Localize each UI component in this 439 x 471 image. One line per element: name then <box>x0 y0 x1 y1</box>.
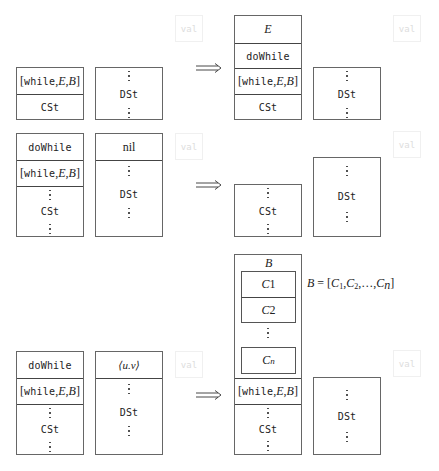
bracket-close: ] <box>76 74 80 89</box>
cst-cell: CSt <box>235 200 301 222</box>
vertical-dots-icon <box>346 432 348 445</box>
block-b: B <box>69 166 76 181</box>
vertical-dots-icon <box>128 208 130 221</box>
data-stack: DSt <box>95 67 163 120</box>
expr-e: E <box>58 384 65 399</box>
control-stack: doWhile [while,E,B] CSt <box>16 351 84 455</box>
transition-arrow-icon <box>196 180 222 190</box>
dowhile-cell: doWhile <box>17 134 83 160</box>
while-keyword: while <box>24 168 55 179</box>
dst-cell: DSt <box>314 186 380 206</box>
c-symbol: C <box>346 276 354 290</box>
bracket-close: ] <box>294 74 298 89</box>
while-cell: [while,E,B] <box>235 68 301 94</box>
control-stack: doWhile [while,E,B] CSt <box>16 133 84 237</box>
subscript: n <box>270 356 275 366</box>
val-register: val <box>175 133 203 160</box>
c-symbol: C <box>261 277 269 292</box>
while-cell: [while,E,B] <box>235 378 301 404</box>
vertical-dots-icon <box>49 224 51 237</box>
val-register: val <box>393 350 421 377</box>
val-register: val <box>393 131 421 158</box>
c-symbol: C <box>331 276 339 290</box>
control-stack: [while,E,B] CSt <box>16 67 84 120</box>
vertical-dots-icon <box>267 441 269 454</box>
equals: = [ <box>314 276 331 290</box>
data-stack: DSt <box>313 67 381 120</box>
vertical-dots-icon <box>128 384 130 397</box>
vertical-dots-icon <box>346 108 348 121</box>
transition-arrow-icon <box>196 390 222 400</box>
bracket-close: ] <box>76 166 80 181</box>
cst-cell: CSt <box>235 418 301 440</box>
expr-e: E <box>58 166 65 181</box>
bracket-close: ] <box>76 384 80 399</box>
block-b: B <box>287 384 294 399</box>
while-keyword: while <box>24 76 55 87</box>
vertical-dots-icon <box>346 212 348 225</box>
subscript: 2 <box>270 303 276 318</box>
vertical-dots-icon <box>267 328 269 341</box>
dst-cell: DSt <box>96 402 162 422</box>
block-item-cn: Cn <box>241 347 296 374</box>
while-cell: [while,E,B] <box>17 68 83 94</box>
dowhile-cell: doWhile <box>235 43 301 68</box>
cst-cell: CSt <box>17 94 83 120</box>
vertical-dots-icon <box>128 166 130 179</box>
block-item-c1: C1 <box>241 271 296 298</box>
c-symbol: C <box>262 353 270 368</box>
dst-cell: DSt <box>314 406 380 426</box>
control-stack: CSt <box>234 184 302 237</box>
transition-arrow-icon <box>196 63 222 73</box>
cst-cell: CSt <box>17 200 83 222</box>
expr-e: E <box>276 384 283 399</box>
while-keyword: while <box>242 386 273 397</box>
block-b: B <box>287 74 294 89</box>
expr-e: E <box>276 74 283 89</box>
block-definition: B = [C1,C2,…,Cn] <box>307 276 394 293</box>
pair-uv-cell: ⟨u.v⟩ <box>96 352 162 378</box>
while-cell: [while,E,B] <box>17 160 83 186</box>
vertical-dots-icon <box>128 108 130 121</box>
while-cell: [while,E,B] <box>17 378 83 404</box>
dst-cell: DSt <box>96 184 162 204</box>
data-stack: DSt <box>313 377 381 455</box>
expr-e: E <box>58 74 65 89</box>
block-item-c2: C2 <box>241 297 296 323</box>
bracket-close: ] <box>390 276 394 290</box>
subscript: 1 <box>270 277 276 292</box>
control-stack: B C1 C2 Cn [while,E,B] CSt <box>234 254 302 455</box>
block-label: B <box>265 256 272 271</box>
while-keyword: while <box>242 76 273 87</box>
block-b: B <box>69 384 76 399</box>
cst-cell: CSt <box>17 418 83 440</box>
data-stack: nil DSt <box>95 133 163 237</box>
cst-cell: CSt <box>235 94 301 120</box>
control-stack: E doWhile [while,E,B] CSt <box>234 15 302 120</box>
vertical-dots-icon <box>267 224 269 237</box>
nil-cell: nil <box>96 134 162 160</box>
ellipsis: ,…, <box>358 276 376 290</box>
expr-e-cell: E <box>235 16 301 43</box>
val-register: val <box>175 351 203 378</box>
c-symbol: C <box>261 303 269 318</box>
val-register: val <box>393 15 421 42</box>
vertical-dots-icon <box>346 390 348 403</box>
vertical-dots-icon <box>49 442 51 455</box>
dowhile-cell: doWhile <box>17 352 83 378</box>
vertical-dots-icon <box>128 426 130 439</box>
val-register: val <box>175 15 203 42</box>
data-stack: DSt <box>313 157 381 237</box>
dst-cell: DSt <box>314 81 380 107</box>
data-stack: ⟨u.v⟩ DSt <box>95 351 163 455</box>
dst-cell: DSt <box>96 81 162 107</box>
vertical-dots-icon <box>346 166 348 179</box>
c-symbol: C <box>376 276 384 290</box>
block-b: B <box>69 74 76 89</box>
bracket-close: ] <box>294 384 298 399</box>
while-keyword: while <box>24 386 55 397</box>
